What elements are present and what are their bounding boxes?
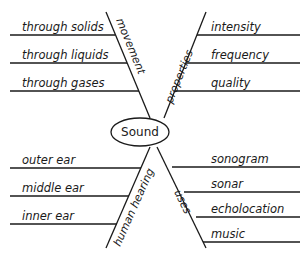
item-label: through liquids	[22, 48, 109, 62]
item-label: quality	[211, 76, 251, 90]
item-label: echolocation	[211, 202, 284, 216]
branch-movement: through solids through liquids through g…	[10, 12, 150, 118]
sound-concept-diagram: Sound through solids through liquids thr…	[0, 0, 308, 254]
center-node: Sound	[111, 118, 169, 146]
item-label: outer ear	[22, 153, 76, 167]
item-label: sonar	[211, 177, 244, 191]
diagram-svg: Sound through solids through liquids thr…	[0, 0, 308, 254]
category-label: human hearing	[111, 166, 157, 248]
center-label: Sound	[121, 125, 159, 139]
branch-human-hearing: outer ear middle ear inner ear human hea…	[10, 147, 157, 248]
item-label: frequency	[211, 48, 269, 62]
branch-properties: intensity frequency quality properties	[162, 12, 300, 118]
item-label: intensity	[211, 20, 261, 34]
item-label: through solids	[22, 20, 104, 34]
branch-uses: sonogram sonar echolocation music uses	[157, 147, 300, 248]
item-label: through gases	[22, 76, 105, 90]
item-label: music	[211, 227, 246, 241]
item-label: inner ear	[22, 209, 75, 223]
item-label: sonogram	[211, 152, 269, 166]
item-label: middle ear	[22, 181, 85, 195]
category-label: movement	[113, 16, 148, 77]
category-label: properties	[162, 48, 196, 106]
